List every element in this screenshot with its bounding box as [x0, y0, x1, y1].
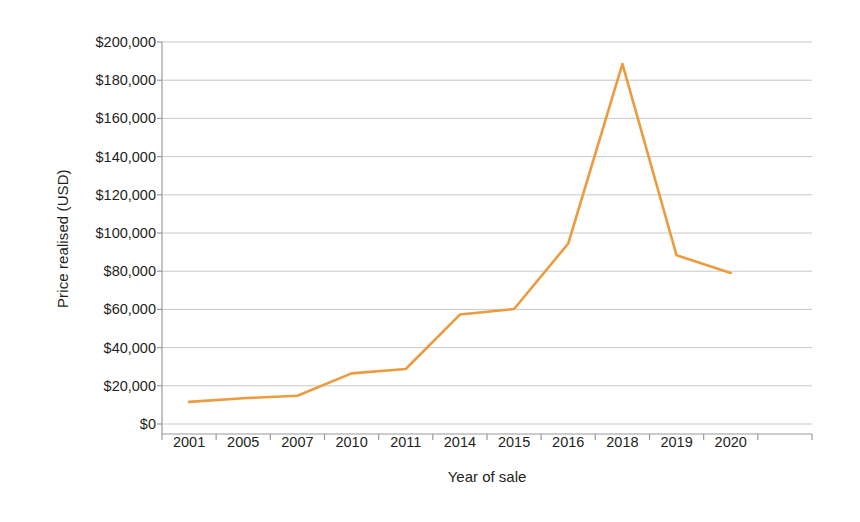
- x-axis-tick-label: 2016: [552, 434, 584, 450]
- gridlines: [162, 42, 812, 424]
- x-axis-tick-label: 2011: [390, 434, 421, 450]
- x-axis-tick-labels: 2001200520072010201120142015201620182019…: [162, 434, 812, 458]
- x-axis-title: Year of sale: [162, 468, 812, 485]
- y-axis-ticks: [157, 42, 162, 424]
- x-axis-tick-label: 2019: [660, 434, 692, 450]
- x-axis-tick-label: 2018: [606, 434, 638, 450]
- x-axis-tick-label: 2007: [281, 434, 313, 450]
- x-axis-tick-label: 2010: [335, 434, 367, 450]
- x-axis-tick-label: 2020: [715, 434, 747, 450]
- line-chart: Price realised (USD) $0$20,000$40,000$60…: [0, 0, 860, 522]
- x-axis-tick-label: 2005: [227, 434, 259, 450]
- x-axis-tick-label: 2014: [444, 434, 476, 450]
- x-axis-tick-label: 2015: [498, 434, 530, 450]
- x-axis-tick-label: 2001: [173, 434, 205, 450]
